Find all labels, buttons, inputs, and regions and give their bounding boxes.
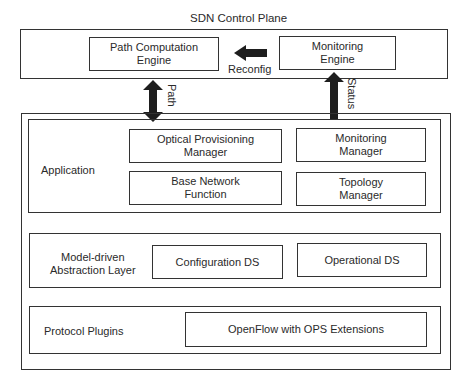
optical-provisioning-manager: Optical Provisioning Manager [129, 129, 282, 163]
abstraction-layer-label: Model-driven Abstraction Layer [50, 251, 136, 277]
openflow-ops-extensions: OpenFlow with OPS Extensions [185, 312, 427, 347]
status-label: Status [346, 78, 358, 109]
reconfig-arrow-icon [234, 45, 268, 61]
configuration-ds: Configuration DS [152, 245, 283, 279]
base-network-function: Base Network Function [129, 171, 282, 205]
application-label: Application [41, 164, 95, 177]
control-plane-title: SDN Control Plane [190, 12, 287, 25]
reconfig-label: Reconfig [228, 63, 271, 76]
operational-ds: Operational DS [297, 243, 427, 277]
path-label: Path [166, 84, 178, 107]
monitoring-engine: Monitoring Engine [279, 36, 396, 70]
path-computation-engine: Path Computation Engine [89, 37, 219, 71]
topology-manager: Topology Manager [296, 172, 426, 206]
monitoring-manager: Monitoring Manager [296, 128, 426, 162]
protocol-plugins-label: Protocol Plugins [44, 325, 124, 338]
